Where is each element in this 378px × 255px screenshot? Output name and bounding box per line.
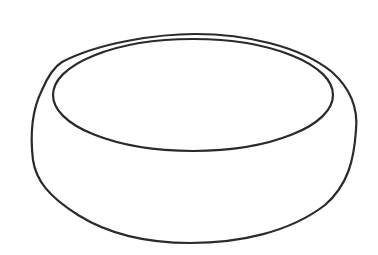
bowl-illustration	[0, 0, 378, 255]
drawing-canvas	[0, 0, 378, 255]
bowl-inner-rim	[53, 39, 333, 151]
bowl-outer-contour	[32, 34, 357, 243]
